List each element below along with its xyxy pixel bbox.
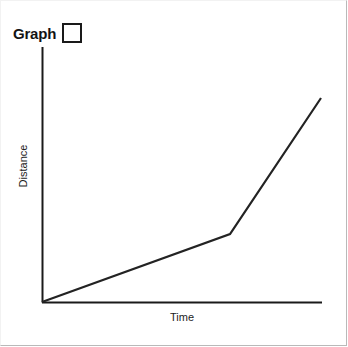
x-axis-label: Time xyxy=(145,311,219,323)
data-line-series xyxy=(42,98,321,302)
chart-svg xyxy=(0,0,348,347)
y-axis-label: Distance xyxy=(17,130,29,202)
chart-plot-area: Distance Time xyxy=(0,0,348,347)
graph-screenshot: Graph Distance Time xyxy=(0,0,348,347)
